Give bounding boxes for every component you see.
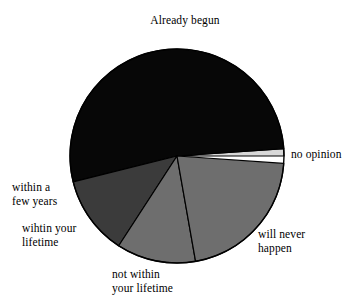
pie-chart-figure: Already begun no opinion will never happ… — [0, 0, 360, 306]
slice-label-wihtin-your-lifetime: wihtin your lifetime — [22, 222, 118, 249]
slice-label-already-begun: Already begun — [110, 14, 260, 28]
slice-label-not-within-your-lifetime: not within your lifetime — [112, 268, 222, 295]
slice-label-within-a-few-years: within a few years — [12, 181, 104, 208]
slice-label-no-opinion: no opinion — [291, 148, 359, 162]
slice-label-will-never-happen: will never happen — [258, 228, 354, 255]
